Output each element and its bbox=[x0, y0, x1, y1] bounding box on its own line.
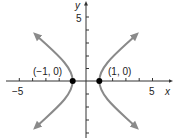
y-tick-label-5: 5 bbox=[76, 13, 82, 24]
left-vertex-label: (−1, 0) bbox=[33, 66, 62, 77]
vertex-right-point bbox=[96, 78, 102, 84]
x-axis-label: x bbox=[164, 86, 171, 97]
y-axis-label: y bbox=[74, 0, 81, 11]
hyperbola-chart: (−1, 0) (1, 0) −5 5 x 5 y bbox=[0, 0, 176, 138]
x-tick-label-5: 5 bbox=[149, 86, 155, 97]
right-vertex-label: (1, 0) bbox=[108, 66, 131, 77]
x-tick-label-neg5: −5 bbox=[12, 86, 24, 97]
vertex-left-point bbox=[70, 78, 76, 84]
